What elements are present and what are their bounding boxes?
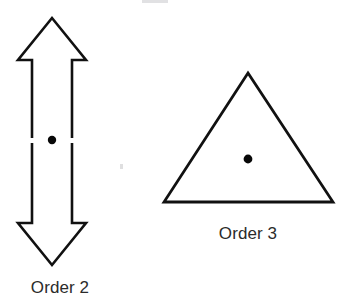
center-of-rotation-dot-order-2 [48,136,56,144]
figure-order-3: Order 3 [164,73,333,243]
center-of-rotation-dot-order-3 [244,155,253,164]
symmetry-figure-canvas: Order 2 Order 3 [0,0,340,305]
arrow-shaft-gap-left [29,138,35,143]
caption-order-3: Order 3 [219,224,277,243]
scan-artifact-top-smudge [142,0,168,3]
figure-order-2: Order 2 [18,18,89,297]
scan-artifact-mid-speck [120,164,123,169]
arrow-shaft-gap-right [69,138,75,143]
triangle-outline [164,73,333,202]
caption-order-2: Order 2 [31,278,89,297]
